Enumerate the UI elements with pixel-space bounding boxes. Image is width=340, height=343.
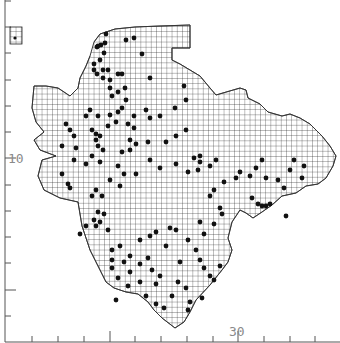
record-dot <box>198 220 203 225</box>
record-dot <box>168 226 173 231</box>
record-dot <box>218 206 223 211</box>
record-dot <box>68 128 73 133</box>
record-dot <box>234 176 239 181</box>
record-dot <box>84 114 89 119</box>
record-dot <box>144 294 149 299</box>
record-dot <box>110 94 115 99</box>
record-dot <box>164 244 169 249</box>
record-dot <box>192 156 197 161</box>
record-dot <box>146 140 151 145</box>
bottom-axis-ticks <box>32 331 315 342</box>
record-dot <box>148 116 153 121</box>
record-dot <box>116 276 121 281</box>
record-dot <box>106 68 111 73</box>
record-dot <box>88 108 93 113</box>
record-dot <box>90 128 95 133</box>
record-dot <box>78 232 83 237</box>
record-dot <box>72 134 77 139</box>
record-dot <box>208 194 213 199</box>
record-dot <box>158 114 163 119</box>
record-dot <box>158 166 163 171</box>
record-dot <box>124 98 129 103</box>
record-dot <box>96 144 101 149</box>
record-dot <box>118 244 123 249</box>
record-dot <box>132 36 137 41</box>
record-dot <box>98 134 103 139</box>
record-dot <box>198 154 203 159</box>
record-dot <box>95 72 100 77</box>
record-dot <box>128 254 133 259</box>
record-dot <box>200 296 205 301</box>
record-dot <box>144 108 149 113</box>
bottom-axis-label: 30 <box>229 324 245 339</box>
record-dot <box>154 282 159 287</box>
record-dot <box>194 248 199 253</box>
record-dot <box>120 106 125 111</box>
record-dot <box>132 126 137 131</box>
record-dot <box>60 172 65 177</box>
record-dot <box>264 176 269 181</box>
record-dot <box>182 84 187 89</box>
record-dot <box>102 212 107 217</box>
record-dot <box>254 166 259 171</box>
record-dot <box>288 168 293 173</box>
record-dot <box>98 58 103 63</box>
record-dot <box>154 302 159 307</box>
record-dot <box>101 68 106 73</box>
record-dot <box>120 150 125 155</box>
record-dot <box>212 222 217 227</box>
record-dot <box>238 170 243 175</box>
record-dot <box>184 128 189 133</box>
record-dot <box>96 114 101 119</box>
record-dot <box>116 110 121 115</box>
record-dot <box>202 266 207 271</box>
record-dot <box>96 44 101 49</box>
record-dot <box>138 262 143 267</box>
record-dot <box>108 113 113 118</box>
key-box <box>10 27 22 44</box>
record-dot <box>101 76 106 81</box>
record-dot <box>146 256 151 261</box>
record-dot <box>198 258 203 263</box>
record-dot <box>101 148 106 153</box>
left-axis-label: 10 <box>8 151 24 166</box>
record-dot <box>124 38 129 43</box>
record-dot <box>184 98 189 103</box>
record-dot <box>110 266 115 271</box>
record-dot <box>108 78 113 83</box>
record-dot <box>220 212 225 217</box>
record-dot <box>94 138 99 143</box>
record-dot <box>173 106 178 111</box>
record-dot <box>64 122 69 127</box>
record-dot <box>132 114 137 119</box>
record-dot <box>90 154 95 159</box>
record-dot <box>102 51 107 56</box>
record-dot <box>92 218 97 223</box>
record-dot <box>122 260 127 265</box>
record-dot <box>84 162 89 167</box>
record-dot <box>120 72 125 77</box>
record-dot <box>92 68 97 73</box>
record-dot <box>106 124 111 129</box>
record-dot <box>96 210 101 215</box>
record-dot <box>282 186 287 191</box>
record-dot <box>154 230 159 235</box>
record-dot <box>186 308 191 313</box>
record-dot <box>162 306 167 311</box>
record-dot <box>148 76 153 81</box>
record-dot <box>100 194 105 199</box>
record-dot <box>104 32 109 37</box>
record-dot <box>208 164 213 169</box>
record-dot <box>292 158 297 163</box>
record-dot <box>176 280 181 285</box>
record-dot <box>212 278 217 283</box>
record-dot <box>110 248 115 253</box>
record-dot <box>72 158 77 163</box>
record-dot <box>126 122 131 127</box>
record-dot <box>134 142 139 147</box>
record-dot <box>302 164 307 169</box>
record-dot <box>114 120 119 125</box>
record-dot <box>128 138 133 143</box>
record-dot <box>68 186 73 191</box>
record-dot <box>84 224 89 229</box>
